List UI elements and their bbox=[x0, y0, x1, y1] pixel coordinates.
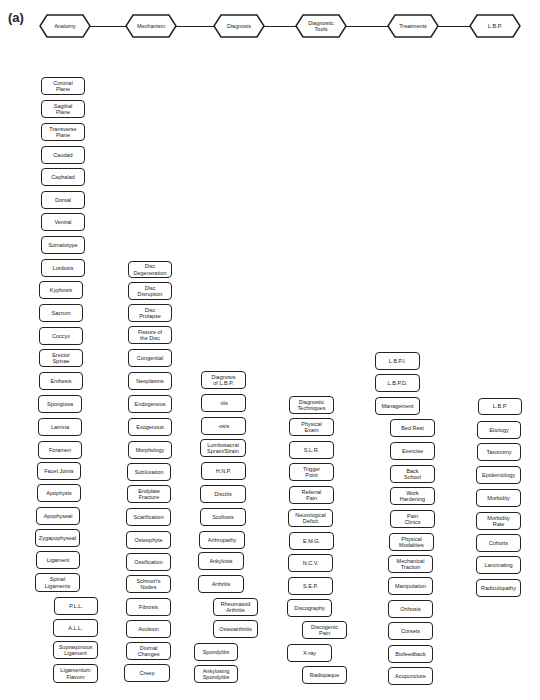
node-diagnosis[interactable]: Arthritis bbox=[198, 575, 244, 593]
node-lbp[interactable]: Morbidity bbox=[476, 489, 521, 507]
node-anatomy[interactable]: Spinal Ligaments bbox=[35, 573, 80, 592]
node-treatments[interactable]: Exercise bbox=[390, 442, 435, 460]
node-lbp[interactable]: Epidemiology bbox=[476, 466, 521, 484]
node-anatomy[interactable]: Ventral bbox=[41, 213, 85, 231]
category-hexagon[interactable]: L.B.P. bbox=[469, 14, 521, 38]
node-anatomy[interactable]: Supraspinous Ligament bbox=[53, 641, 98, 659]
node-anatomy[interactable]: Facet Joints bbox=[37, 462, 81, 480]
node-mechanism[interactable]: Congenital bbox=[128, 349, 172, 367]
node-mechanism[interactable]: Exogenous bbox=[128, 418, 172, 436]
node-anatomy[interactable]: Coccyx bbox=[39, 327, 83, 345]
node-mechanism[interactable]: Disc Degeneration bbox=[128, 261, 172, 278]
node-diagnostic-tools[interactable]: S.L.R. bbox=[289, 441, 334, 459]
node-anatomy[interactable]: Ligamentum Flavum bbox=[53, 664, 98, 683]
node-mechanism[interactable]: Schmorl's Nodes bbox=[126, 575, 171, 593]
node-treatments[interactable]: Management bbox=[375, 397, 420, 415]
node-diagnosis[interactable]: Discitis bbox=[200, 485, 246, 503]
node-anatomy[interactable]: Cephalad bbox=[41, 168, 85, 186]
node-anatomy[interactable]: Caudad bbox=[41, 146, 85, 164]
node-diagnosis[interactable]: Osteoarthritis bbox=[213, 620, 258, 638]
node-diagnostic-tools[interactable]: Discogenic Pain bbox=[302, 621, 347, 639]
node-diagnosis[interactable]: Spondylitis bbox=[194, 643, 238, 661]
node-treatments[interactable]: Back School bbox=[390, 465, 435, 483]
node-diagnosis[interactable]: Arthropathy bbox=[199, 531, 245, 549]
node-mechanism[interactable]: Fissure of the Disc bbox=[128, 326, 172, 344]
node-mechanism[interactable]: Neoplasms bbox=[128, 372, 172, 390]
node-anatomy[interactable]: Zygapophyseal bbox=[35, 529, 80, 547]
node-mechanism[interactable]: Fibrosis bbox=[126, 598, 171, 616]
node-diagnosis[interactable]: Rheumatoid Arthritis bbox=[213, 598, 258, 616]
node-mechanism[interactable]: Disc Disruption bbox=[128, 282, 172, 300]
node-diagnosis[interactable]: Lumbosacral Sprain/Strain bbox=[200, 439, 246, 457]
node-treatments[interactable]: Biofeedback bbox=[388, 645, 433, 663]
node-lbp[interactable]: L.B.P. bbox=[478, 398, 522, 415]
node-diagnostic-tools[interactable]: Physical Exam bbox=[289, 418, 334, 436]
category-hexagon[interactable]: Anatomy bbox=[39, 14, 91, 38]
node-treatments[interactable]: Mechanical Traction bbox=[388, 555, 433, 573]
node-diagnostic-tools[interactable]: N.C.V. bbox=[288, 554, 333, 572]
node-diagnostic-tools[interactable]: S.E.P. bbox=[288, 577, 333, 595]
node-mechanism[interactable]: Endogenous bbox=[128, 395, 172, 413]
node-treatments[interactable]: Bed Rest bbox=[390, 419, 435, 437]
node-diagnostic-tools[interactable]: Discography bbox=[287, 599, 332, 617]
node-mechanism[interactable]: Morphology bbox=[128, 441, 172, 459]
category-hexagon[interactable]: Treatments bbox=[387, 14, 439, 38]
node-mechanism[interactable]: Diurnal Changes bbox=[126, 642, 171, 660]
node-anatomy[interactable]: Apophyseal bbox=[36, 507, 80, 525]
node-diagnosis[interactable]: Diagnosis of L.B.P. bbox=[201, 371, 246, 389]
node-lbp[interactable]: Morbidity Rate bbox=[476, 512, 521, 530]
node-diagnostic-tools[interactable]: Radiopaque bbox=[302, 666, 347, 684]
node-treatments[interactable]: Corsets bbox=[388, 622, 433, 640]
node-mechanism[interactable]: Avulsion bbox=[126, 620, 171, 638]
node-anatomy[interactable]: Lordosis bbox=[41, 259, 85, 277]
node-diagnostic-tools[interactable]: Referral Pain bbox=[289, 486, 334, 504]
node-treatments[interactable]: Pain Clinics bbox=[390, 510, 435, 528]
node-mechanism[interactable]: Scarification bbox=[126, 508, 171, 526]
category-hexagon[interactable]: Diagnostic Tools bbox=[295, 14, 347, 38]
node-lbp[interactable]: Taxonomy bbox=[477, 443, 521, 461]
node-mechanism[interactable]: Creep bbox=[124, 664, 170, 682]
node-anatomy[interactable]: Kyphosis bbox=[39, 281, 83, 299]
node-diagnosis[interactable]: Ankylosing Spondylitis bbox=[194, 665, 238, 683]
node-treatments[interactable]: Work Hardening bbox=[390, 487, 435, 505]
node-lbp[interactable]: Etiology bbox=[477, 421, 521, 439]
node-lbp[interactable]: Radiculopathy bbox=[476, 579, 521, 597]
node-anatomy[interactable]: Apophysis bbox=[37, 484, 81, 502]
node-diagnostic-tools[interactable]: X-ray bbox=[287, 644, 332, 662]
node-diagnosis[interactable]: Ankylosis bbox=[198, 552, 244, 570]
node-lbp[interactable]: Cohorts bbox=[476, 534, 521, 552]
node-anatomy[interactable]: Somatotype bbox=[41, 236, 85, 254]
category-hexagon[interactable]: Mechanism bbox=[125, 14, 177, 38]
node-anatomy[interactable]: Sacrum bbox=[39, 304, 83, 322]
node-mechanism[interactable]: Endplate Fracture bbox=[127, 485, 171, 503]
node-diagnostic-tools[interactable]: E.M.G. bbox=[289, 532, 334, 550]
node-diagnosis[interactable]: -itis bbox=[201, 394, 246, 412]
node-anatomy[interactable]: A.L.L. bbox=[53, 619, 98, 637]
node-mechanism[interactable]: Subluxation bbox=[127, 463, 171, 481]
node-anatomy[interactable]: P.L.L. bbox=[54, 597, 98, 615]
node-mechanism[interactable]: Disc Prolapse bbox=[128, 304, 172, 322]
node-diagnostic-tools[interactable]: Trigger Point bbox=[289, 463, 334, 481]
node-mechanism[interactable]: Osteophyte bbox=[126, 531, 171, 549]
node-treatments[interactable]: Physical Modalities bbox=[389, 533, 434, 551]
node-lbp[interactable]: Lancinating bbox=[476, 556, 521, 574]
node-treatments[interactable]: L.B.P.I. bbox=[375, 352, 420, 370]
node-diagnostic-tools[interactable]: Neurological Deficit bbox=[288, 509, 333, 527]
node-anatomy[interactable]: Dorsal bbox=[41, 191, 85, 209]
node-diagnostic-tools[interactable]: Diagnostic Techniques bbox=[289, 396, 334, 414]
node-treatments[interactable]: Acupuncture bbox=[388, 667, 433, 685]
node-anatomy[interactable]: Ligament bbox=[36, 551, 80, 569]
node-treatments[interactable]: L.B.P.D. bbox=[375, 374, 420, 392]
node-diagnosis[interactable]: H.N.P. bbox=[201, 462, 246, 480]
node-diagnosis[interactable]: Scoliosis bbox=[200, 508, 246, 526]
node-anatomy[interactable]: Spongiosa bbox=[38, 395, 82, 413]
node-anatomy[interactable]: Sagittal Plane bbox=[41, 100, 85, 118]
node-anatomy[interactable]: Transverse Plane bbox=[41, 123, 85, 141]
node-anatomy[interactable]: Erector Spinae bbox=[39, 349, 83, 367]
node-treatments[interactable]: Manipulation bbox=[388, 577, 433, 595]
category-hexagon[interactable]: Diagnosis bbox=[213, 14, 265, 38]
node-anatomy[interactable]: Enthesis bbox=[39, 372, 83, 390]
node-treatments[interactable]: Orthosis bbox=[388, 600, 433, 618]
node-anatomy[interactable]: Foramen bbox=[38, 441, 82, 459]
node-diagnosis[interactable]: -osis bbox=[201, 417, 246, 435]
